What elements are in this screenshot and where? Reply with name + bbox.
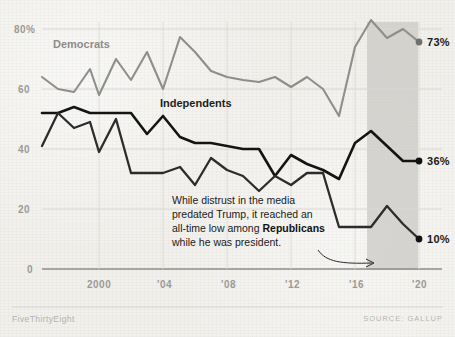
annotation-line-1: While distrust in the media: [172, 194, 295, 206]
line-chart-svg: 80% 60 40 20 0 2000 '04 '08 '12 '16 '20 …: [0, 0, 455, 337]
annotation-block: While distrust in the media predated Tru…: [171, 194, 325, 248]
series-label-independents: Independents: [160, 97, 232, 109]
endpoint-label-independents: 36%: [427, 155, 450, 167]
x-tick-2020: '20: [412, 279, 427, 290]
y-tick-80: 80%: [14, 24, 36, 35]
annotation-line-4: while he was president.: [171, 236, 281, 248]
endpoint-dot-republicans: [416, 236, 423, 243]
annotation-line-3b: Republicans: [262, 222, 325, 234]
x-tick-2016: '16: [349, 279, 364, 290]
chart-canvas: 80% 60 40 20 0 2000 '04 '08 '12 '16 '20 …: [0, 0, 455, 337]
endpoint-dot-democrats: [416, 39, 423, 46]
y-tick-40: 40: [18, 144, 30, 155]
series-label-democrats: Democrats: [53, 38, 110, 50]
x-tick-2012: '12: [285, 279, 300, 290]
endpoint-label-democrats: 73%: [427, 36, 450, 48]
endpoint-dot-independents: [416, 158, 423, 165]
y-tick-0: 0: [27, 264, 33, 275]
x-tick-2008: '08: [221, 279, 236, 290]
y-tick-60: 60: [18, 84, 30, 95]
annotation-line-2: predated Trump, it reached an: [172, 208, 313, 220]
annotation-arrow-icon: [318, 250, 374, 267]
annotation-line-3a: all-time low among: [172, 222, 262, 234]
shaded-region-trump-presidency: [367, 22, 418, 270]
endpoint-label-republicans: 10%: [427, 233, 450, 245]
source-label: SOURCE: GALLUP: [363, 314, 443, 323]
x-tick-2004: '04: [157, 279, 172, 290]
x-tick-2000: 2000: [87, 279, 111, 290]
y-tick-20: 20: [18, 204, 30, 215]
annotation-line-3: all-time low among Republicans: [172, 222, 325, 234]
chart-page: 80% 60 40 20 0 2000 '04 '08 '12 '16 '20 …: [0, 0, 455, 337]
brand-label: FiveThirtyEight: [12, 314, 75, 324]
